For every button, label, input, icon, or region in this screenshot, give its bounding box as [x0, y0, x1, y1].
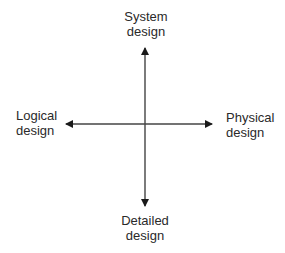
label-system-design-line1: System [118, 9, 174, 24]
label-physical-design: Physical design [226, 110, 274, 140]
label-detailed-design: Detailed design [114, 213, 176, 243]
label-logical-design: Logical design [16, 108, 57, 138]
label-physical-design-line1: Physical [226, 110, 274, 125]
label-system-design: System design [118, 9, 174, 39]
label-system-design-line2: design [118, 24, 174, 39]
label-logical-design-line2: design [16, 123, 57, 138]
label-physical-design-line2: design [226, 125, 274, 140]
label-logical-design-line1: Logical [16, 108, 57, 123]
label-detailed-design-line1: Detailed [114, 213, 176, 228]
label-detailed-design-line2: design [114, 228, 176, 243]
